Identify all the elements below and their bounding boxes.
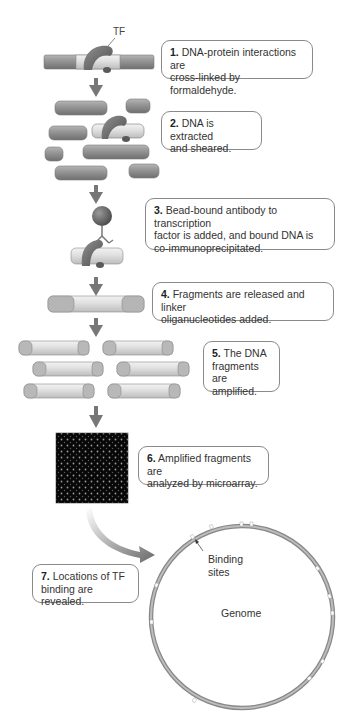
step-number: 5. [212,347,221,359]
diagram-graphics: TF [0,0,350,725]
step-6-box: 6. Amplified fragments are analyzed by m… [138,446,269,485]
arrow-down-2 [89,185,103,204]
arrow-down-1 [89,78,103,97]
step-number: 2. [170,117,179,129]
step-number: 3. [154,204,163,216]
arrow-down-3 [89,277,103,296]
step-number: 1. [170,46,179,58]
step4-fragment-with-linkers [48,296,144,312]
binding-sites-label: Binding sites [208,553,243,578]
step-7-box: 7. Locations of TF binding are revealed. [32,564,139,603]
step-3-box: 3. Bead-bound antibody to transcription … [145,198,335,250]
step-1-box: 1. DNA-protein interactions are cross-li… [161,40,313,79]
step-number: 7. [41,570,50,582]
genome-label: Genome [221,607,261,620]
step-2-box: 2. DNA is extracted and sheared. [161,111,262,150]
microarray-chip [56,433,128,503]
step2-sheared-dna-fragments [45,99,159,180]
tf-label: TF [113,26,125,37]
step3-bead-antibody-complex [71,206,123,268]
step-4-box: 4. Fragments are released and linker oli… [152,282,334,321]
arrow-down-5 [89,406,103,428]
step-number: 4. [161,288,170,300]
step-5-box: 5. The DNA fragments are amplified. [203,341,280,392]
step5-amplified-fragments [19,341,189,398]
step-number: 6. [147,452,156,464]
step1-dna-with-tf [44,38,154,73]
arrow-down-4 [89,318,103,337]
curved-arrow-to-genome [86,508,155,563]
